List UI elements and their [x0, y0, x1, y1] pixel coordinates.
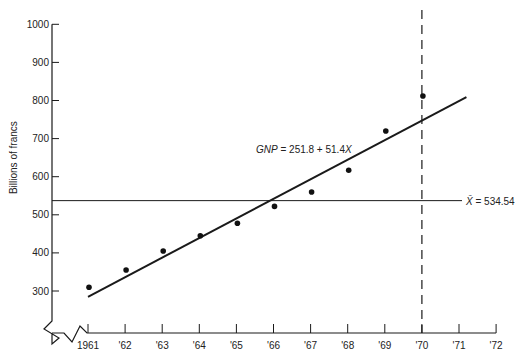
- x-tick-label: '66: [267, 340, 280, 351]
- data-point: [86, 284, 92, 290]
- x-tick-label: 1961: [77, 340, 100, 351]
- x-tick-label: '70: [415, 340, 428, 351]
- data-point: [198, 233, 204, 239]
- data-point: [309, 189, 315, 195]
- y-tick-label: 800: [32, 95, 49, 106]
- y-tick-label: 400: [32, 247, 49, 258]
- data-point: [346, 167, 352, 173]
- y-tick-label: 300: [32, 286, 49, 297]
- mean-label: X̄ = 534.54: [465, 195, 515, 207]
- gnp-regression-chart: 3004005006007008009001000Billions of fra…: [0, 0, 526, 363]
- x-tick-label: '64: [193, 340, 206, 351]
- data-point: [160, 248, 166, 254]
- data-point: [123, 267, 129, 273]
- y-tick-label: 900: [32, 57, 49, 68]
- data-point: [420, 93, 426, 99]
- data-point: [272, 204, 278, 210]
- x-tick-label: '67: [304, 340, 317, 351]
- x-tick-label: '69: [378, 340, 391, 351]
- annotations: GNP = 251.8 + 51.4XX̄ = 534.54: [256, 144, 515, 207]
- y-tick-label: 600: [32, 171, 49, 182]
- y-tick-label: 700: [32, 133, 49, 144]
- data-point: [383, 128, 389, 134]
- data-points: [86, 93, 426, 290]
- x-tick-label: '72: [490, 340, 503, 351]
- y-axis-title: Billions of francs: [8, 121, 19, 194]
- data-point: [235, 220, 241, 226]
- x-tick-label: '65: [230, 340, 243, 351]
- y-axis: 3004005006007008009001000Billions of fra…: [8, 19, 59, 344]
- regression-line: [88, 97, 466, 297]
- regression-equation-label: GNP = 251.8 + 51.4X: [256, 144, 352, 155]
- y-tick-label: 500: [32, 209, 49, 220]
- x-tick-label: '63: [156, 340, 169, 351]
- x-tick-label: '62: [119, 340, 132, 351]
- x-tick-label: '71: [452, 340, 465, 351]
- x-tick-label: '68: [341, 340, 354, 351]
- x-axis: 1961'62'63'64'65'66'67'68'69'70'71'72: [52, 324, 503, 351]
- y-tick-label: 1000: [27, 19, 50, 30]
